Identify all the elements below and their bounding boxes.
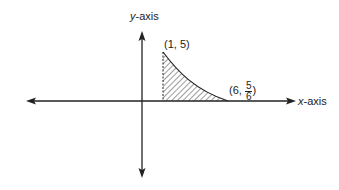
point-end-label: (6, 56) [229,81,256,102]
x-axis-label: x-axis [298,96,327,107]
coordinate-plane [0,0,339,190]
point-start-label: (1, 5) [164,39,190,50]
shaded-region [163,52,228,101]
y-axis-label: y-axis [130,11,159,22]
